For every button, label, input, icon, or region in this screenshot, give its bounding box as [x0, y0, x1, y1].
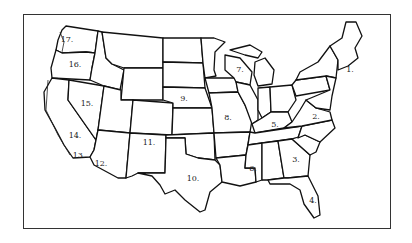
region-label-14: 14. [69, 131, 82, 140]
state-arizona [90, 130, 130, 178]
state-colorado [130, 100, 173, 135]
state-wyoming [121, 68, 163, 100]
region-label-4: 4. [309, 196, 317, 205]
region-label-2: 2. [312, 112, 320, 121]
region-label-15: 15. [81, 99, 94, 108]
state-ohio [270, 85, 296, 112]
region-label-1: 1. [346, 65, 354, 74]
state-minnesota [201, 38, 225, 78]
region-label-5: 5. [271, 120, 279, 129]
state-montana [102, 32, 163, 68]
state-iowa [205, 78, 238, 93]
state-arkansas [214, 132, 250, 158]
region-label-13: 13. [73, 151, 86, 160]
region-label-12: 12. [95, 159, 108, 168]
region-label-16: 16. [69, 60, 82, 69]
state-north-dakota [163, 38, 203, 63]
region-label-8: 8. [224, 113, 232, 122]
region-label-10: 10. [187, 174, 200, 183]
region-label-17: 17. [61, 35, 74, 44]
region-label-11: 11. [143, 138, 156, 147]
region-label-9: 9. [180, 94, 188, 103]
region-label-3: 3. [292, 155, 300, 164]
state-south-dakota [163, 62, 205, 88]
state-new-york [296, 46, 338, 80]
region-label-7: 7. [236, 65, 244, 74]
state-kansas [172, 108, 214, 135]
region-label-6: 6. [249, 164, 257, 173]
